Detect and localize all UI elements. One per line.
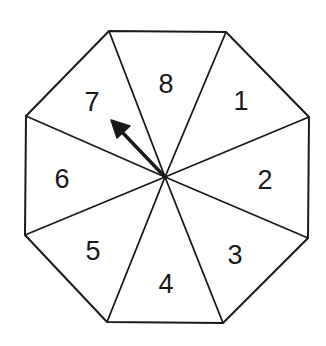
section-label-2: 2 (257, 165, 272, 195)
section-label-5: 5 (85, 236, 100, 266)
section-label-6: 6 (54, 164, 69, 194)
section-label-1: 1 (233, 86, 248, 116)
section-label-8: 8 (158, 69, 173, 99)
section-label-7: 7 (84, 87, 99, 117)
section-label-4: 4 (158, 269, 173, 299)
spinner-diagram: 1 2 3 4 5 6 7 8 (0, 0, 326, 346)
section-label-3: 3 (227, 240, 242, 270)
